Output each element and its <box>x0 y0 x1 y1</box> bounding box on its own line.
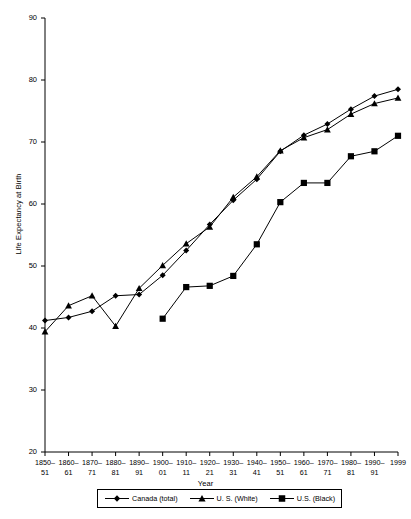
y-tick-label: 30 <box>15 385 37 394</box>
square-marker-icon <box>269 493 295 504</box>
legend-item-3[interactable]: U.S. (Black) <box>269 493 335 504</box>
data-point <box>348 153 354 159</box>
data-point <box>371 93 377 99</box>
data-point <box>395 86 401 92</box>
data-point <box>160 316 166 322</box>
data-point <box>395 133 401 139</box>
series-1 <box>42 86 401 323</box>
data-point <box>65 302 72 308</box>
legend-item-2[interactable]: U. S. (White) <box>189 493 258 504</box>
plot-area <box>0 0 411 519</box>
x-axis-title-wrapper: Year <box>0 472 411 490</box>
chart-legend: Canada (total)U. S. (White)U.S. (Black) <box>97 489 342 508</box>
data-point <box>371 148 377 154</box>
data-point <box>66 314 72 320</box>
data-point <box>89 308 95 314</box>
legend-label: U.S. (Black) <box>297 494 335 503</box>
data-point <box>277 147 284 153</box>
data-point <box>324 121 330 127</box>
data-point <box>254 241 260 247</box>
data-point <box>183 240 190 246</box>
y-tick-label: 40 <box>15 323 37 332</box>
triangle-marker-icon <box>189 493 215 504</box>
data-point <box>324 126 331 132</box>
data-point <box>277 199 283 205</box>
series-2 <box>42 95 402 335</box>
data-point <box>301 180 307 186</box>
diamond-marker-icon <box>104 493 130 504</box>
data-point <box>89 292 96 298</box>
data-point <box>42 318 48 324</box>
legend-item-1[interactable]: Canada (total) <box>104 493 178 504</box>
y-tick-label: 20 <box>15 447 37 456</box>
data-point <box>348 111 355 117</box>
y-axis-title: Life Expectancy at Birth <box>14 173 23 254</box>
series-3 <box>160 133 402 322</box>
legend-label: Canada (total) <box>132 494 178 503</box>
x-tick-label: 1999 <box>378 458 411 468</box>
y-tick-label: 90 <box>15 13 37 22</box>
y-tick-label: 80 <box>15 75 37 84</box>
x-axis-title: Year <box>198 479 214 488</box>
y-axis-title-wrapper: Life Expectancy at Birth <box>7 154 25 274</box>
life-expectancy-chart: 2030405060708090 1850–511860–611870–7118… <box>0 0 411 519</box>
data-point <box>207 283 213 289</box>
y-tick-label: 70 <box>15 137 37 146</box>
data-point <box>113 293 119 299</box>
data-point <box>324 180 330 186</box>
legend-label: U. S. (White) <box>217 494 258 503</box>
data-point <box>230 273 236 279</box>
data-point <box>183 284 189 290</box>
data-point <box>395 95 402 101</box>
